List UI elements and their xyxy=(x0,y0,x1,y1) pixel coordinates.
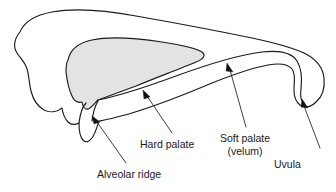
leader-line-alveolar-ridge xyxy=(97,122,126,163)
palate-outline-path xyxy=(15,10,325,142)
label-uvula: Uvula xyxy=(274,158,301,170)
leader-line-soft-palate xyxy=(230,70,246,127)
diagram-canvas: Alveolar ridge Hard palate Soft palate (… xyxy=(0,0,336,192)
label-soft-palate-velum: (velum) xyxy=(227,145,262,157)
label-alveolar-ridge: Alveolar ridge xyxy=(97,168,161,180)
label-group: Alveolar ridge Hard palate Soft palate (… xyxy=(97,132,301,180)
annotation-alveolar-ridge xyxy=(92,116,126,163)
anatomy-outline-group xyxy=(15,10,325,142)
leader-line-uvula xyxy=(304,106,320,148)
palate-diagram: Alveolar ridge Hard palate Soft palate (… xyxy=(0,0,336,192)
label-soft-palate: Soft palate xyxy=(220,132,270,144)
label-hard-palate: Hard palate xyxy=(140,138,194,150)
